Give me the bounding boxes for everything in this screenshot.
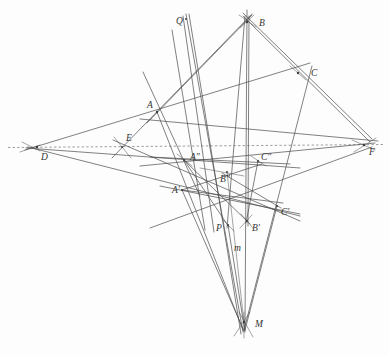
point-A-prime <box>181 189 183 191</box>
line-E-B-extended <box>112 14 252 158</box>
line-P-M <box>228 225 245 332</box>
label-C-prime: C′ <box>281 207 290 217</box>
point-C-double-prime <box>257 160 259 162</box>
axis-line-DF <box>8 145 384 148</box>
label-E: E <box>125 133 132 143</box>
point-A-double-prime <box>183 159 185 161</box>
label-M: M <box>254 319 264 329</box>
line-D-A-extended <box>25 63 310 150</box>
line-F-B-extended <box>243 13 372 139</box>
point-D <box>36 146 38 148</box>
line-B-B1 <box>248 16 249 226</box>
point-B-prime <box>246 220 248 222</box>
label-A-prime: A′ <box>171 185 181 195</box>
line-A2-P <box>184 160 229 227</box>
point-B <box>246 21 248 23</box>
line-through-A-oblique <box>143 72 200 196</box>
label-P: P <box>215 223 222 233</box>
label-B-double-prime: B″ <box>220 174 231 184</box>
line-C-M <box>244 66 312 330</box>
point-P <box>227 224 229 226</box>
line-B-C-extended <box>243 16 370 142</box>
label-B: B <box>259 18 265 28</box>
line-B-M-vertical <box>245 10 247 330</box>
point-A <box>156 111 158 113</box>
line-upperleft-through-A1 <box>172 30 205 230</box>
point-M <box>243 321 245 323</box>
line-A2-B1 <box>184 160 250 224</box>
line-B2-C1 <box>222 173 281 208</box>
point-F <box>363 144 365 146</box>
label-Q: Q <box>176 16 183 26</box>
point-B-double-prime <box>226 171 228 173</box>
point-C-prime <box>276 205 278 207</box>
line-F-A-extended <box>140 119 378 141</box>
label-A: A <box>146 100 153 110</box>
label-C: C <box>311 68 318 78</box>
line-A1-M <box>182 190 244 331</box>
point-E <box>121 146 123 148</box>
label-C-double-prime: C″ <box>261 152 272 162</box>
label-D: D <box>40 152 48 162</box>
label-F: F <box>368 147 375 157</box>
geometry-canvas: Q B C A E D F A″ C″ B″ A′ C′ B′ P m M <box>0 0 389 355</box>
tick-M-a <box>234 312 250 336</box>
label-A-double-prime: A″ <box>189 152 201 162</box>
point-C <box>297 72 299 74</box>
label-B-prime: B′ <box>252 223 261 233</box>
geometry-figure: Q B C A E D F A″ C″ B″ A′ C′ B′ P m M <box>0 0 389 355</box>
line-A-B-extended <box>147 15 252 123</box>
construction-lines <box>8 10 384 338</box>
point-markers <box>36 18 365 323</box>
point-labels: Q B C A E D F A″ C″ B″ A′ C′ B′ P m M <box>40 16 375 329</box>
point-Q <box>185 18 187 20</box>
label-m: m <box>234 243 241 253</box>
